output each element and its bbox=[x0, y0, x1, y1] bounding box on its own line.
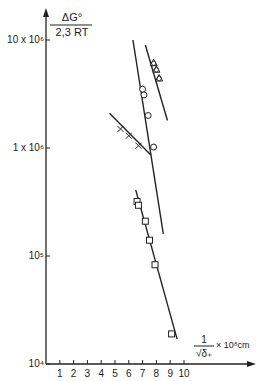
y-tick-label: 1 x 10⁶ bbox=[13, 142, 44, 153]
data-point-circles bbox=[145, 112, 151, 118]
x-ticks: 12345678910 bbox=[57, 360, 190, 379]
y-label-denominator: 2,3 RT bbox=[56, 26, 89, 38]
data-point-squares bbox=[169, 331, 175, 337]
axes bbox=[43, 8, 256, 367]
data-point-squares bbox=[152, 262, 158, 268]
fit-line-triangles bbox=[145, 45, 167, 120]
x-tick-label: 8 bbox=[154, 368, 160, 379]
x-axis-label: 1 √δ₊ × 10⁸cm bbox=[194, 334, 250, 359]
data-point-squares bbox=[147, 237, 153, 243]
y-tick-label: 10 x 10⁶ bbox=[7, 34, 44, 45]
y-tick-label: 10⁴ bbox=[29, 358, 44, 369]
data-point-squares bbox=[135, 202, 141, 208]
x-tick-label: 7 bbox=[140, 368, 146, 379]
x-label-suffix: × 10⁸cm bbox=[216, 340, 250, 350]
x-label-denominator: √δ₊ bbox=[196, 348, 212, 359]
fit-lines bbox=[109, 40, 177, 339]
x-tick-label: 2 bbox=[71, 368, 77, 379]
y-ticks: 10 x 10⁶1 x 10⁶10⁵10⁴ bbox=[7, 34, 50, 369]
x-tick-label: 10 bbox=[178, 368, 190, 379]
data-point-squares bbox=[142, 218, 148, 224]
data-points bbox=[118, 59, 175, 337]
chart: 12345678910 10 x 10⁶1 x 10⁶10⁵10⁴ ΔG° 2,… bbox=[0, 0, 262, 381]
data-point-circles bbox=[141, 92, 147, 98]
y-axis-arrow-icon bbox=[43, 8, 49, 17]
x-tick-label: 6 bbox=[126, 368, 132, 379]
x-axis-arrow-icon bbox=[247, 361, 256, 367]
data-point-crosses bbox=[135, 143, 141, 149]
data-point-circles bbox=[151, 144, 157, 150]
x-tick-label: 5 bbox=[112, 368, 118, 379]
y-tick-label: 10⁵ bbox=[29, 250, 44, 261]
x-tick-label: 1 bbox=[57, 368, 63, 379]
y-label-numerator: ΔG° bbox=[62, 11, 82, 23]
x-label-numerator: 1 bbox=[201, 334, 207, 345]
data-point-crosses bbox=[118, 126, 124, 132]
y-axis-label: ΔG° 2,3 RT bbox=[50, 11, 92, 38]
x-tick-label: 4 bbox=[98, 368, 104, 379]
data-point-circles bbox=[140, 86, 146, 92]
x-tick-label: 3 bbox=[85, 368, 91, 379]
x-tick-label: 9 bbox=[167, 368, 173, 379]
